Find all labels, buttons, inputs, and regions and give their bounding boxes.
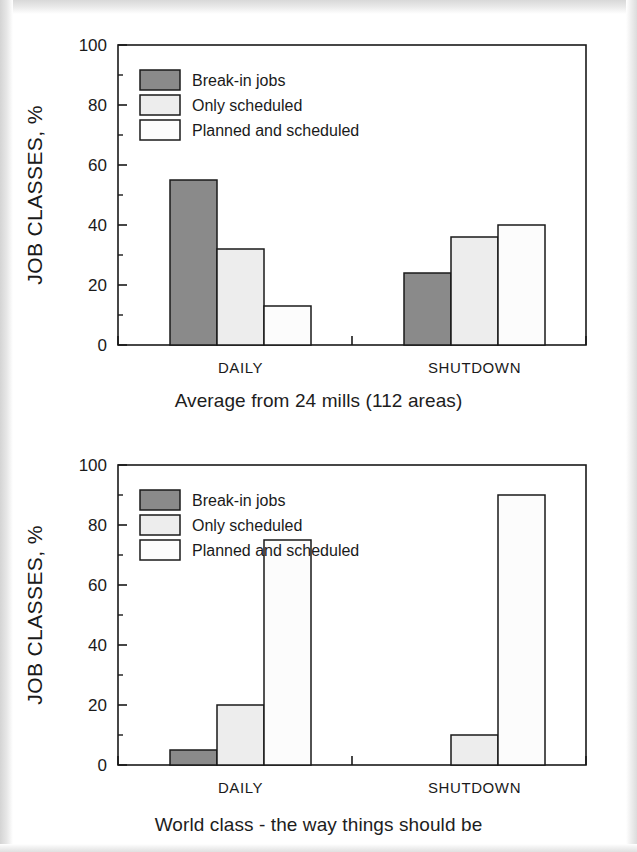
y-axis-tick-label: 20 <box>88 696 107 715</box>
y-axis-tick-label: 80 <box>88 516 107 535</box>
bar <box>217 249 264 345</box>
x-axis-category-label: SHUTDOWN <box>428 779 521 796</box>
bar <box>170 750 217 765</box>
figure-page: 020406080100JOB CLASSES, %DAILYSHUTDOWNB… <box>0 0 637 852</box>
y-axis-tick-label: 80 <box>88 96 107 115</box>
bar <box>404 273 451 345</box>
y-axis-tick-label: 20 <box>88 276 107 295</box>
y-axis-tick-label: 60 <box>88 156 107 175</box>
y-axis-tick-label: 40 <box>88 216 107 235</box>
legend-swatch <box>140 540 180 560</box>
legend-swatch <box>140 120 180 140</box>
bar <box>498 495 545 765</box>
legend-label: Break-in jobs <box>192 492 285 509</box>
chart-panel-bottom: 020406080100JOB CLASSES, %DAILYSHUTDOWNB… <box>0 438 637 838</box>
bar <box>264 540 311 765</box>
bar <box>451 735 498 765</box>
chart-caption-bottom: World class - the way things should be <box>0 814 637 836</box>
legend-swatch <box>140 515 180 535</box>
page-border-top <box>0 0 637 14</box>
legend-swatch <box>140 70 180 90</box>
bar <box>498 225 545 345</box>
y-axis-tick-label: 100 <box>79 36 107 55</box>
y-axis-title: JOB CLASSES, % <box>23 105 46 285</box>
x-axis-category-label: SHUTDOWN <box>428 359 521 376</box>
y-axis-tick-label: 0 <box>98 756 107 775</box>
bar <box>451 237 498 345</box>
legend-swatch <box>140 490 180 510</box>
chart-caption-top: Average from 24 mills (112 areas) <box>0 390 637 412</box>
y-axis-title: JOB CLASSES, % <box>23 525 46 705</box>
y-axis-tick-label: 60 <box>88 576 107 595</box>
page-border-bottom <box>0 844 637 852</box>
y-axis-tick-label: 100 <box>79 456 107 475</box>
legend-label: Planned and scheduled <box>192 542 359 559</box>
y-axis-tick-label: 40 <box>88 636 107 655</box>
legend-swatch <box>140 95 180 115</box>
chart-panel-top: 020406080100JOB CLASSES, %DAILYSHUTDOWNB… <box>0 18 637 418</box>
bar <box>217 705 264 765</box>
bar-chart-top: 020406080100JOB CLASSES, %DAILYSHUTDOWNB… <box>0 18 637 390</box>
x-axis-category-label: DAILY <box>218 359 263 376</box>
legend-label: Only scheduled <box>192 97 302 114</box>
y-axis-tick-label: 0 <box>98 336 107 355</box>
legend-label: Break-in jobs <box>192 72 285 89</box>
bar-chart-bottom: 020406080100JOB CLASSES, %DAILYSHUTDOWNB… <box>0 438 637 810</box>
x-axis-category-label: DAILY <box>218 779 263 796</box>
legend-label: Only scheduled <box>192 517 302 534</box>
bar <box>264 306 311 345</box>
bar <box>170 180 217 345</box>
legend-label: Planned and scheduled <box>192 122 359 139</box>
